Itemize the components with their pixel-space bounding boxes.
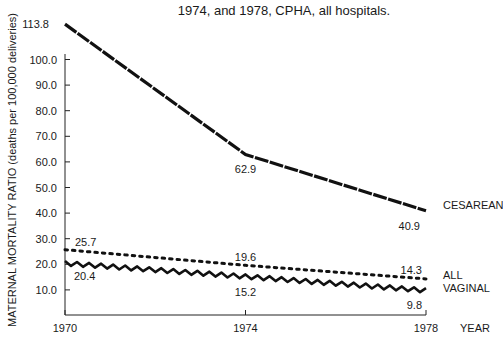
x-axis-label: YEAR [460,322,490,334]
series-name-cesarean: CESAREAN [443,199,503,211]
data-label: 25.7 [75,236,96,248]
x-tick-label: 1970 [53,322,77,334]
y-tick-label: 100.0 [29,54,57,66]
data-label: 9.8 [407,299,422,311]
data-label: 14.3 [401,264,422,276]
y-tick-label: 90.0 [36,79,57,91]
chart-title: 1974, and 1978, CPHA, all hospitals. [178,3,390,18]
y-tick-label: 70.0 [36,130,57,142]
y-axis-label: MATERNAL MORTALITY RATIO (deaths per 100… [6,13,18,327]
y-tick-label: 40.0 [36,207,57,219]
data-label: 20.4 [74,270,95,282]
data-label: 15.2 [235,286,256,298]
chart-canvas: 1974, and 1978, CPHA, all hospitals. MAT… [0,0,503,341]
y-tick-label: 20.0 [36,258,57,270]
y-tick-label: 80.0 [36,105,57,117]
y-tick-label: 60.0 [36,156,57,168]
series-name-vaginal: VAGINAL [443,282,490,294]
series-name-all: ALL [443,269,463,281]
y-tick-label: 30.0 [36,233,57,245]
data-label: 40.9 [399,220,420,232]
y-tick-label: 10.0 [36,284,57,296]
data-label: 62.9 [235,163,256,175]
data-label: 19.6 [235,251,256,263]
y-tick-label: 50.0 [36,182,57,194]
x-tick-label: 1978 [414,322,438,334]
series-line-cesarean [65,24,426,211]
data-label: 113.8 [22,18,49,30]
x-tick-label: 1974 [233,322,257,334]
